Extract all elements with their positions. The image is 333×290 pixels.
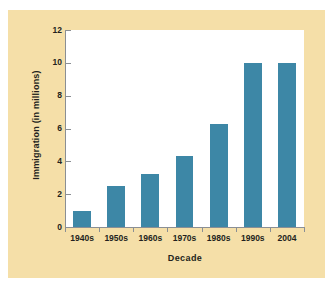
x-tick-label: 1950s xyxy=(99,234,133,243)
y-axis-title: Immigration (in millions) xyxy=(31,45,41,205)
y-tick-label-text: 0 xyxy=(42,223,62,232)
y-tick-label-text: 2 xyxy=(42,190,62,199)
y-tick-label-text: 8 xyxy=(42,91,62,100)
y-tick-label: 4 xyxy=(38,157,62,167)
y-tick-mark xyxy=(66,63,71,64)
y-tick-label: 0 xyxy=(38,223,62,233)
chart-panel: 024681012 1940s1950s1960s1970s1980s1990s… xyxy=(8,10,325,278)
x-tick-label: 1970s xyxy=(167,234,201,243)
x-axis-title: Decade xyxy=(65,253,305,263)
y-tick-label: 8 xyxy=(38,91,62,101)
x-tick-mark xyxy=(236,228,237,232)
bar xyxy=(244,63,262,227)
y-tick-label-text: 12 xyxy=(42,26,62,35)
y-tick-label: 10 xyxy=(38,58,62,68)
x-tick-mark xyxy=(133,228,134,232)
x-tick-label: 1990s xyxy=(236,234,270,243)
y-tick-label: 12 xyxy=(38,26,62,36)
x-tick-label: 1960s xyxy=(133,234,167,243)
y-tick-mark xyxy=(66,227,71,228)
x-tick-mark xyxy=(99,228,100,232)
bar xyxy=(141,174,159,227)
x-tick-mark xyxy=(304,228,305,232)
x-tick-mark xyxy=(202,228,203,232)
y-tick-label-text: 6 xyxy=(42,124,62,133)
y-tick-label: 2 xyxy=(38,190,62,200)
y-tick-mark xyxy=(66,30,71,31)
bar xyxy=(73,211,91,227)
y-tick-mark xyxy=(66,161,71,162)
y-tick-mark xyxy=(66,129,71,130)
chart-figure: 024681012 1940s1950s1960s1970s1980s1990s… xyxy=(0,0,333,290)
x-tick-mark xyxy=(65,228,66,232)
bar xyxy=(107,186,125,227)
x-axis-line xyxy=(65,227,305,228)
y-tick-label-text: 4 xyxy=(42,157,62,166)
y-tick-label: 6 xyxy=(38,124,62,134)
bar xyxy=(176,156,194,227)
bar xyxy=(210,124,228,227)
x-tick-label: 1940s xyxy=(65,234,99,243)
bar xyxy=(278,63,296,227)
x-tick-mark xyxy=(270,228,271,232)
x-tick-label: 2004 xyxy=(270,234,304,243)
y-tick-label-text: 10 xyxy=(42,58,62,67)
y-tick-mark xyxy=(66,194,71,195)
y-tick-mark xyxy=(66,96,71,97)
x-tick-mark xyxy=(167,228,168,232)
x-tick-label: 1980s xyxy=(202,234,236,243)
